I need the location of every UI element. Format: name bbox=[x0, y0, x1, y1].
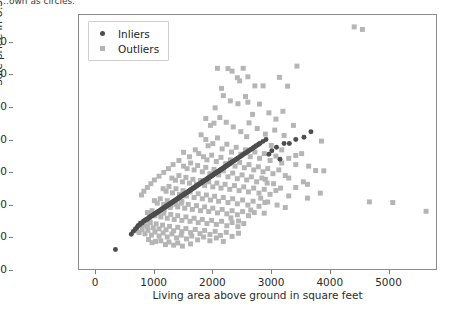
data-point bbox=[257, 102, 262, 107]
data-point bbox=[277, 75, 282, 80]
series-outliers bbox=[134, 24, 428, 248]
data-point bbox=[291, 123, 296, 128]
data-point bbox=[206, 143, 211, 148]
data-point bbox=[244, 177, 249, 182]
data-point bbox=[237, 188, 242, 193]
data-point bbox=[261, 169, 266, 174]
data-point bbox=[219, 86, 224, 91]
data-point bbox=[241, 184, 246, 189]
data-point bbox=[230, 196, 235, 201]
y-tick-mark bbox=[9, 74, 13, 75]
data-point bbox=[241, 66, 246, 71]
data-point bbox=[204, 193, 209, 198]
data-point bbox=[183, 175, 188, 180]
data-point bbox=[263, 137, 268, 142]
data-point bbox=[278, 157, 283, 162]
data-point bbox=[145, 228, 150, 233]
data-point bbox=[231, 124, 236, 129]
data-point bbox=[176, 158, 181, 163]
y-tick-label: 100000 bbox=[0, 230, 7, 242]
data-point bbox=[214, 159, 219, 164]
data-point bbox=[247, 162, 252, 167]
data-point bbox=[161, 170, 166, 175]
data-point bbox=[203, 165, 208, 170]
data-point bbox=[294, 64, 299, 69]
data-point bbox=[180, 179, 185, 184]
data-point bbox=[262, 211, 267, 216]
x-axis-label: Living area above ground in square feet bbox=[78, 289, 437, 301]
data-point bbox=[213, 105, 218, 110]
data-point bbox=[192, 167, 197, 172]
data-point bbox=[273, 154, 278, 159]
data-point bbox=[189, 234, 194, 239]
data-point bbox=[174, 235, 179, 240]
data-point bbox=[248, 154, 253, 159]
legend: Inliers Outliers bbox=[88, 21, 169, 61]
legend-item-inliers[interactable]: Inliers bbox=[95, 26, 159, 41]
x-tick-mark bbox=[330, 270, 331, 274]
data-point bbox=[113, 247, 118, 252]
data-point bbox=[246, 213, 251, 218]
data-point bbox=[204, 221, 209, 226]
data-point bbox=[184, 236, 189, 241]
data-point bbox=[286, 176, 291, 181]
data-point bbox=[240, 209, 245, 214]
y-tick-label: 0 bbox=[0, 263, 7, 275]
data-point bbox=[228, 215, 233, 220]
data-point bbox=[214, 235, 219, 240]
data-point bbox=[203, 116, 208, 121]
data-point bbox=[187, 154, 192, 159]
data-point bbox=[245, 100, 250, 105]
x-tick-label: 3000 bbox=[258, 276, 285, 288]
data-point bbox=[352, 24, 357, 29]
data-point bbox=[299, 151, 304, 156]
data-point bbox=[318, 191, 323, 196]
data-point bbox=[275, 203, 280, 208]
x-tick-mark bbox=[154, 270, 155, 274]
data-point bbox=[235, 224, 240, 229]
inliers-marker-icon bbox=[95, 31, 109, 36]
data-point bbox=[226, 174, 231, 179]
data-point bbox=[242, 165, 247, 170]
data-point bbox=[209, 153, 214, 158]
data-point bbox=[232, 183, 237, 188]
legend-item-outliers[interactable]: Outliers bbox=[95, 41, 159, 56]
data-point bbox=[235, 201, 240, 206]
data-point bbox=[215, 135, 220, 140]
data-point bbox=[248, 208, 253, 213]
data-point bbox=[212, 194, 217, 199]
data-point bbox=[272, 128, 277, 133]
data-point bbox=[262, 151, 267, 156]
data-point bbox=[235, 101, 240, 106]
figure-caption: …own as circles. bbox=[0, 0, 200, 8]
x-tick-mark bbox=[271, 270, 272, 274]
data-point bbox=[424, 209, 429, 214]
data-point bbox=[249, 174, 254, 179]
legend-label: Inliers bbox=[118, 28, 150, 40]
data-point bbox=[251, 167, 256, 172]
data-point bbox=[211, 121, 216, 126]
data-point bbox=[360, 27, 365, 32]
data-point bbox=[164, 189, 169, 194]
data-point bbox=[233, 164, 238, 169]
data-point bbox=[226, 200, 231, 205]
data-point bbox=[367, 199, 372, 204]
data-point bbox=[196, 191, 201, 196]
data-point bbox=[240, 172, 245, 177]
data-point bbox=[195, 163, 200, 168]
data-point bbox=[293, 137, 298, 142]
data-point bbox=[217, 115, 222, 120]
data-point bbox=[258, 196, 263, 201]
y-tick-mark bbox=[9, 172, 13, 173]
data-point bbox=[256, 204, 261, 209]
data-point bbox=[165, 235, 170, 240]
data-point bbox=[140, 227, 145, 232]
data-point bbox=[202, 204, 207, 209]
x-tick-label: 1000 bbox=[140, 276, 167, 288]
data-point bbox=[166, 184, 171, 189]
data-point bbox=[246, 189, 251, 194]
data-point bbox=[301, 135, 306, 140]
data-point bbox=[305, 196, 310, 201]
data-point bbox=[201, 235, 206, 240]
data-point bbox=[157, 174, 162, 179]
